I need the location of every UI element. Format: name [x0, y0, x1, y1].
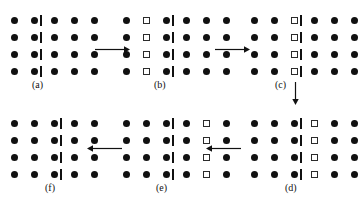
filled-circle-atom	[11, 68, 18, 75]
filled-circle-atom	[331, 34, 338, 41]
filled-circle-atom	[223, 34, 230, 41]
open-square-atom	[291, 51, 298, 58]
extra-half-plane-marker	[40, 49, 42, 60]
filled-circle-atom	[183, 17, 190, 24]
filled-circle-atom	[271, 51, 278, 58]
extra-half-plane-marker	[40, 32, 42, 43]
lattice-f	[11, 120, 98, 178]
filled-circle-atom	[203, 51, 210, 58]
filled-circle-atom	[31, 68, 38, 75]
filled-circle-atom	[183, 120, 190, 127]
filled-circle-atom	[91, 137, 98, 144]
extra-half-plane-marker	[172, 169, 174, 180]
filled-circle-atom	[163, 154, 170, 161]
open-square-atom	[311, 137, 318, 144]
filled-circle-atom	[51, 51, 58, 58]
extra-half-plane-marker	[300, 15, 302, 26]
extra-half-plane-marker	[300, 169, 302, 180]
filled-circle-atom	[291, 154, 298, 161]
lattice-a	[11, 17, 98, 75]
filled-circle-atom	[223, 137, 230, 144]
open-square-atom	[203, 120, 210, 127]
extra-half-plane-marker	[300, 32, 302, 43]
filled-circle-atom	[123, 17, 130, 24]
filled-circle-atom	[11, 154, 18, 161]
filled-circle-atom	[351, 120, 358, 127]
open-square-atom	[291, 34, 298, 41]
transition-arrow-d-to-e	[206, 144, 241, 153]
filled-circle-atom	[331, 120, 338, 127]
filled-circle-atom	[163, 120, 170, 127]
filled-circle-atom	[351, 51, 358, 58]
filled-circle-atom	[11, 51, 18, 58]
filled-circle-atom	[31, 34, 38, 41]
filled-circle-atom	[291, 120, 298, 127]
filled-circle-atom	[183, 171, 190, 178]
filled-circle-atom	[351, 68, 358, 75]
filled-circle-atom	[163, 34, 170, 41]
open-square-atom	[203, 137, 210, 144]
panel-caption-f: (f)	[45, 183, 55, 193]
lattice-b	[123, 17, 230, 75]
filled-circle-atom	[223, 171, 230, 178]
filled-circle-atom	[203, 17, 210, 24]
panel-c	[251, 17, 358, 75]
filled-circle-atom	[351, 171, 358, 178]
filled-circle-atom	[31, 171, 38, 178]
filled-circle-atom	[163, 68, 170, 75]
filled-circle-atom	[91, 68, 98, 75]
lattice-c	[251, 17, 358, 75]
filled-circle-atom	[251, 154, 258, 161]
filled-circle-atom	[331, 17, 338, 24]
filled-circle-atom	[183, 137, 190, 144]
filled-circle-atom	[91, 154, 98, 161]
filled-circle-atom	[351, 17, 358, 24]
extra-half-plane-marker	[40, 15, 42, 26]
filled-circle-atom	[51, 120, 58, 127]
filled-circle-atom	[311, 51, 318, 58]
open-square-atom	[143, 51, 150, 58]
open-square-atom	[203, 154, 210, 161]
filled-circle-atom	[331, 154, 338, 161]
filled-circle-atom	[11, 17, 18, 24]
filled-circle-atom	[251, 68, 258, 75]
filled-circle-atom	[183, 51, 190, 58]
extra-half-plane-marker	[300, 135, 302, 146]
extra-half-plane-marker	[60, 169, 62, 180]
filled-circle-atom	[291, 171, 298, 178]
filled-circle-atom	[331, 137, 338, 144]
filled-circle-atom	[271, 154, 278, 161]
filled-circle-atom	[123, 34, 130, 41]
filled-circle-atom	[31, 17, 38, 24]
filled-circle-atom	[51, 154, 58, 161]
filled-circle-atom	[143, 171, 150, 178]
filled-circle-atom	[71, 154, 78, 161]
filled-circle-atom	[331, 51, 338, 58]
extra-half-plane-marker	[60, 135, 62, 146]
filled-circle-atom	[51, 34, 58, 41]
extra-half-plane-marker	[172, 15, 174, 26]
filled-circle-atom	[251, 137, 258, 144]
extra-half-plane-marker	[60, 118, 62, 129]
extra-half-plane-marker	[300, 118, 302, 129]
open-square-atom	[311, 120, 318, 127]
open-square-atom	[291, 68, 298, 75]
filled-circle-atom	[11, 171, 18, 178]
panel-b	[123, 17, 230, 75]
transition-arrow-a-to-b	[95, 45, 130, 54]
extra-half-plane-marker	[172, 118, 174, 129]
filled-circle-atom	[71, 171, 78, 178]
filled-circle-atom	[291, 137, 298, 144]
filled-circle-atom	[91, 171, 98, 178]
filled-circle-atom	[203, 34, 210, 41]
filled-circle-atom	[71, 120, 78, 127]
panel-caption-a: (a)	[32, 80, 43, 90]
open-square-atom	[143, 68, 150, 75]
filled-circle-atom	[203, 68, 210, 75]
filled-circle-atom	[163, 17, 170, 24]
filled-circle-atom	[11, 120, 18, 127]
filled-circle-atom	[123, 137, 130, 144]
filled-circle-atom	[163, 51, 170, 58]
filled-circle-atom	[183, 154, 190, 161]
